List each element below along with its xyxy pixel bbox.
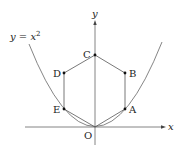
point-b [124,72,127,75]
y-axis-label: y [92,9,98,19]
curve-label: y = x2 [10,31,41,42]
label-e: E [53,105,60,115]
x-axis-label: x [168,122,174,132]
label-a: A [129,105,136,115]
point-e [63,108,66,111]
label-o: O [84,131,92,141]
label-b: B [129,69,136,79]
label-c: C [83,50,91,60]
point-d [63,72,66,75]
point-c [94,54,97,57]
label-d: D [53,69,61,79]
x-axis-arrow-icon [161,125,166,128]
y-axis-arrow-icon [93,20,96,25]
point-a [124,108,127,111]
hexagon [64,55,125,127]
